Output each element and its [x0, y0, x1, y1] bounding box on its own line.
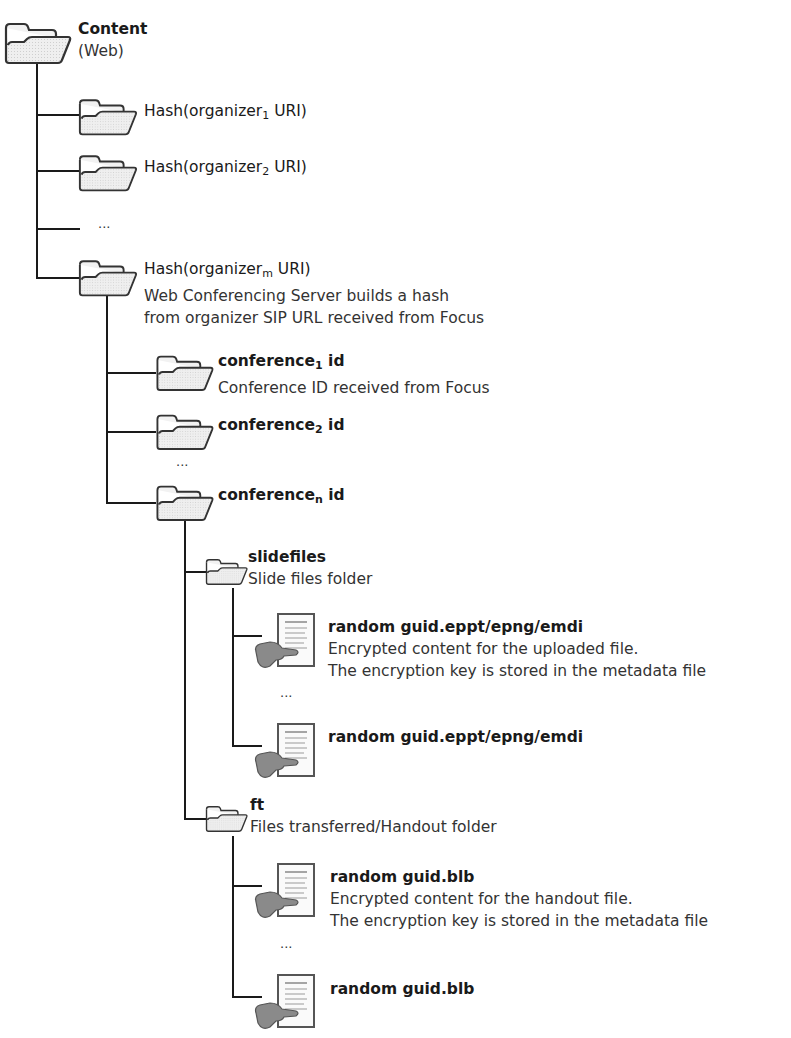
ft-title: ft	[250, 794, 497, 816]
organizer-1-title-pre: Hash(organizer	[144, 102, 262, 120]
organizer-m-trunk-line	[106, 294, 108, 504]
branch-conference-1	[106, 372, 156, 374]
branch-conference-2	[106, 431, 156, 433]
ft-file-1-desc-line2: The encryption key is stored in the meta…	[330, 910, 708, 932]
conference-1-desc: Conference ID received from Focus	[218, 377, 490, 399]
root-folder-title: Content	[78, 18, 147, 40]
ft-file-last-title: random guid.blb	[330, 978, 474, 1000]
slide-file-ellipsis: ...	[280, 685, 292, 700]
slidefiles-trunk-line	[232, 588, 234, 747]
file-with-hand-icon	[252, 862, 322, 924]
slide-file-1-title: random guid.eppt/epng/emdi	[328, 616, 706, 638]
organizer-2-title-pre: Hash(organizer	[144, 158, 262, 176]
file-with-hand-icon	[252, 973, 322, 1035]
organizer-2-title-post: URI)	[269, 158, 307, 176]
conference-2-title: conference2 id	[218, 414, 345, 441]
folder-icon	[204, 553, 248, 589]
root-folder-desc: (Web)	[78, 40, 147, 62]
organizer-m-desc-line1: Web Conferencing Server builds a hash	[144, 285, 484, 307]
file-with-hand-icon	[252, 612, 322, 674]
branch-organizer-1	[36, 114, 80, 116]
conference-1-title: conference1 id	[218, 350, 490, 377]
slide-file-1-desc-line2: The encryption key is stored in the meta…	[328, 660, 706, 682]
organizer-ellipsis: ...	[98, 216, 110, 231]
conference-2-subscript: 2	[315, 423, 323, 436]
ft-trunk-line	[232, 836, 234, 998]
organizer-m-title-pre: Hash(organizer	[144, 260, 262, 278]
organizer-m-desc-line2: from organizer SIP URL received from Foc…	[144, 307, 484, 329]
folder-icon	[2, 18, 72, 66]
organizer-1-title-post: URI)	[269, 102, 307, 120]
organizer-2-title: Hash(organizer2 URI)	[144, 158, 307, 176]
folder-icon	[204, 800, 248, 836]
organizer-m-title-post: URI)	[273, 260, 311, 278]
conference-n-title-post: id	[323, 486, 345, 504]
slide-file-1-desc-line1: Encrypted content for the uploaded file.	[328, 638, 706, 660]
organizer-m-subscript: m	[262, 267, 273, 280]
conference-1-title-post: id	[323, 352, 345, 370]
branch-organizer-ellipsis	[36, 228, 80, 230]
file-with-hand-icon	[252, 722, 322, 784]
conference-n-title-pre: conference	[218, 486, 315, 504]
conference-1-title-pre: conference	[218, 352, 315, 370]
folder-icon	[154, 410, 214, 452]
ft-file-1-desc-line1: Encrypted content for the handout file.	[330, 888, 708, 910]
conference-ellipsis: ...	[176, 454, 188, 469]
folder-icon	[76, 95, 138, 137]
conference-1-subscript: 1	[315, 359, 323, 372]
slide-file-last-title: random guid.eppt/epng/emdi	[328, 726, 583, 748]
folder-icon	[76, 151, 138, 193]
branch-conference-n	[106, 502, 156, 504]
conference-n-trunk-line	[184, 518, 186, 820]
conference-n-subscript: n	[315, 493, 323, 506]
branch-organizer-m	[36, 277, 80, 279]
branch-organizer-2	[36, 170, 80, 172]
conference-n-title: conferencen id	[218, 484, 345, 511]
folder-icon	[76, 256, 138, 298]
ft-desc: Files transferred/Handout folder	[250, 816, 497, 838]
organizer-1-title: Hash(organizer1 URI)	[144, 102, 307, 120]
slidefiles-desc: Slide files folder	[248, 568, 372, 590]
ft-file-1-title: random guid.blb	[330, 866, 708, 888]
conference-2-title-post: id	[323, 416, 345, 434]
folder-icon	[154, 481, 214, 523]
organizer-m-title: Hash(organizerm URI)	[144, 258, 484, 285]
folder-icon	[154, 351, 214, 393]
conference-2-title-pre: conference	[218, 416, 315, 434]
slidefiles-title: slidefiles	[248, 546, 372, 568]
ft-file-ellipsis: ...	[280, 936, 292, 951]
